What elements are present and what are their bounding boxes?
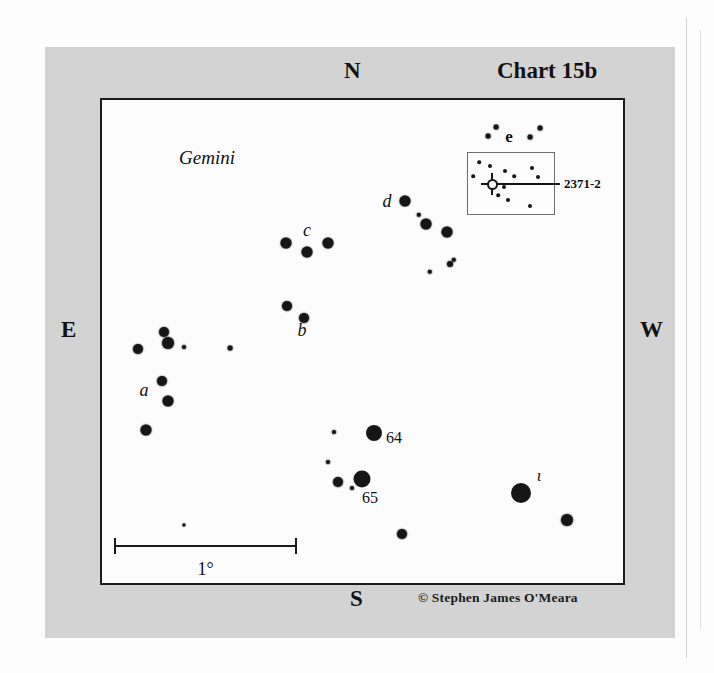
star-marker <box>159 327 169 337</box>
inset-star-marker <box>512 174 516 178</box>
star-marker <box>326 460 330 464</box>
planetary-nebula-icon <box>481 173 503 195</box>
inset-star-marker <box>488 164 492 168</box>
star-marker <box>133 344 143 354</box>
star-label: a <box>140 380 149 401</box>
scale-bar-label: 1° <box>197 559 213 580</box>
chart-title: Chart 15b <box>497 58 597 84</box>
scale-bar-tick-right <box>295 538 297 554</box>
star-marker <box>332 430 336 434</box>
star-label: ι <box>537 466 542 486</box>
star-marker <box>281 238 292 249</box>
page-edge-line-secondary <box>700 30 701 630</box>
inset-star-marker <box>477 160 481 164</box>
compass-label-south: S <box>350 586 363 612</box>
nebula-designation-label: 2371-2 <box>564 176 601 192</box>
compass-label-east: E <box>61 317 77 343</box>
scale-bar-line <box>114 545 297 547</box>
star-marker <box>452 258 456 262</box>
star-marker <box>486 134 491 139</box>
page-edge-line <box>686 18 687 658</box>
star-label: Gemini <box>179 147 235 169</box>
star-marker <box>421 219 432 230</box>
star-marker <box>157 376 167 386</box>
star-marker <box>417 213 421 217</box>
compass-label-north: N <box>344 58 361 84</box>
star-marker <box>228 346 233 351</box>
star-chart-field: Geminiabcde6465ι2371-21° <box>100 98 625 585</box>
star-label: c <box>303 220 311 241</box>
star-marker <box>333 477 343 487</box>
inset-star-marker <box>506 198 510 202</box>
star-marker <box>141 425 152 436</box>
star-marker <box>182 345 186 349</box>
scale-bar-tick-left <box>114 538 116 554</box>
page-canvas: N S E W Chart 15b © Stephen James O'Mear… <box>0 0 714 673</box>
star-label: b <box>298 320 307 341</box>
star-marker <box>182 523 185 526</box>
star-label: 65 <box>362 489 378 507</box>
star-label: d <box>383 191 392 212</box>
star-marker <box>323 238 334 249</box>
star-marker <box>538 126 543 131</box>
star-marker <box>442 227 453 238</box>
inset-star-marker <box>536 175 540 179</box>
star-label: 64 <box>386 429 402 447</box>
star-marker <box>428 270 432 274</box>
star-marker <box>511 483 531 503</box>
star-marker <box>561 514 573 526</box>
star-marker <box>528 135 533 140</box>
star-marker <box>354 471 371 488</box>
star-marker <box>397 529 407 539</box>
compass-label-west: W <box>640 317 664 343</box>
inset-star-marker <box>530 166 534 170</box>
star-marker <box>162 337 174 349</box>
star-marker <box>282 301 292 311</box>
star-marker <box>302 247 313 258</box>
nebula-leader-line <box>502 183 560 185</box>
star-marker <box>163 396 174 407</box>
inset-star-marker <box>503 169 507 173</box>
inset-star-marker <box>528 204 532 208</box>
star-marker <box>447 261 453 267</box>
star-marker <box>350 486 354 490</box>
star-label: e <box>505 127 513 147</box>
star-marker <box>366 425 382 441</box>
star-marker <box>400 196 411 207</box>
inset-star-marker <box>471 174 475 178</box>
star-marker <box>494 125 499 130</box>
copyright-credit: © Stephen James O'Meara <box>418 590 578 606</box>
